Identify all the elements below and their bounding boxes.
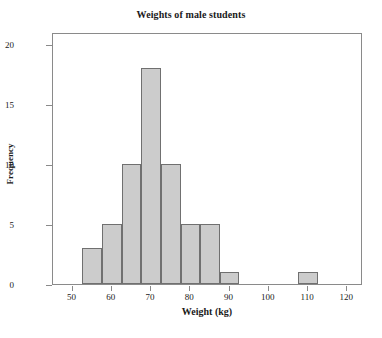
x-tick-label: 80 (185, 292, 194, 302)
x-tick-label: 100 (261, 292, 275, 302)
histogram-bar (200, 224, 220, 284)
x-tick-label: 60 (106, 292, 115, 302)
histogram-bar (298, 272, 318, 284)
x-axis-title: Weight (kg) (52, 306, 362, 317)
y-tick-label: 10 (5, 160, 14, 170)
chart-title: Weights of male students (0, 9, 382, 20)
x-tick-mark (268, 286, 269, 291)
histogram-figure: Weights of male students Frequency 05101… (0, 0, 382, 338)
x-tick-label: 50 (67, 292, 76, 302)
y-tick-mark (46, 45, 52, 46)
x-tick-mark (346, 286, 347, 291)
x-tick-mark (111, 286, 112, 291)
y-tick-mark (46, 105, 52, 106)
y-tick-label: 15 (5, 100, 14, 110)
histogram-bar (220, 272, 240, 284)
x-tick-label: 120 (340, 292, 354, 302)
y-axis: Frequency 05101520 (0, 0, 52, 338)
x-tick-mark (189, 286, 190, 291)
x-tick-label: 110 (300, 292, 313, 302)
histogram-bar (82, 248, 102, 284)
x-tick-mark (72, 286, 73, 291)
plot-area (53, 34, 361, 284)
y-tick-mark (46, 165, 52, 166)
plot-frame (52, 33, 362, 285)
y-tick-label: 5 (10, 220, 15, 230)
y-tick-mark (46, 285, 52, 286)
histogram-bar (102, 224, 122, 284)
y-tick-mark (46, 225, 52, 226)
x-tick-mark (307, 286, 308, 291)
histogram-bar (181, 224, 201, 284)
histogram-bar (122, 164, 142, 284)
x-tick-label: 90 (224, 292, 233, 302)
x-tick-mark (150, 286, 151, 291)
y-tick-label: 0 (10, 280, 15, 290)
x-tick-mark (229, 286, 230, 291)
x-tick-label: 70 (146, 292, 155, 302)
histogram-bar (161, 164, 181, 284)
y-tick-label: 20 (5, 40, 14, 50)
histogram-bar (141, 68, 161, 284)
